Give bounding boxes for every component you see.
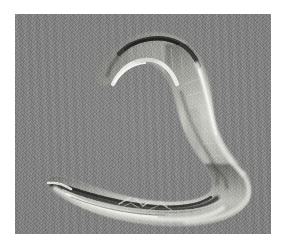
internal-striations — [63, 43, 229, 215]
midbody-shading — [165, 44, 265, 194]
micrograph-figure — [0, 0, 287, 250]
nematode-body — [47, 32, 251, 226]
dic-shadow-edges — [51, 38, 227, 209]
nematode-specimen — [15, 14, 271, 234]
specimen-halo — [47, 32, 251, 226]
dic-highlight-edges — [48, 60, 249, 222]
posterior-shading — [35, 164, 255, 234]
micrograph-plate — [15, 14, 271, 234]
